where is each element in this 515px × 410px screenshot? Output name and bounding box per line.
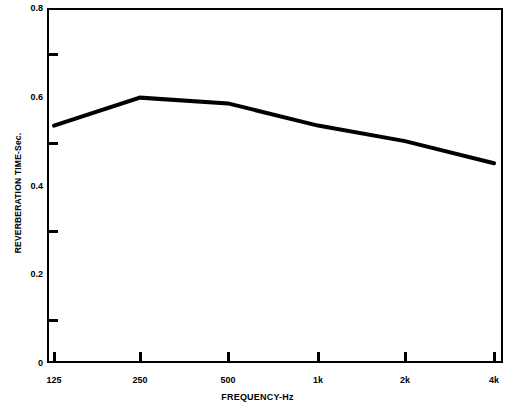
x-tick-label: 250 <box>120 375 160 385</box>
x-tick-label: 4k <box>474 375 514 385</box>
x-tick <box>53 352 56 362</box>
y-minor-tick <box>49 142 58 145</box>
x-tick <box>227 352 230 362</box>
x-tick <box>404 352 407 362</box>
x-tick-label: 1k <box>298 375 338 385</box>
plot-area <box>47 8 503 363</box>
x-tick <box>139 352 142 362</box>
y-axis-title: REVERBERATION TIME-Sec. <box>13 113 23 273</box>
y-tick-label: 0.2 <box>30 270 43 279</box>
y-tick-label: 0 <box>38 359 43 368</box>
x-tick <box>317 352 320 362</box>
x-tick <box>493 352 496 362</box>
y-minor-tick <box>49 319 58 322</box>
reverberation-time-chart: 0.80.60.40.20 1252505001k2k4k FREQUENCY-… <box>0 0 515 410</box>
y-tick-label: 0.4 <box>30 181 43 190</box>
x-tick-label: 2k <box>385 375 425 385</box>
y-minor-tick <box>49 53 58 56</box>
y-minor-tick <box>49 230 58 233</box>
x-tick-label: 500 <box>208 375 248 385</box>
x-tick-label: 125 <box>34 375 74 385</box>
y-tick-label: 0.6 <box>30 92 43 101</box>
x-axis-title: FREQUENCY-Hz <box>0 392 515 402</box>
y-tick-label: 0.8 <box>30 4 43 13</box>
